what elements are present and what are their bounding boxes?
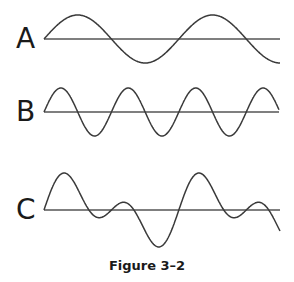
waveforms-svg (0, 0, 294, 282)
figure-caption: Figure 3–2 (0, 258, 294, 273)
